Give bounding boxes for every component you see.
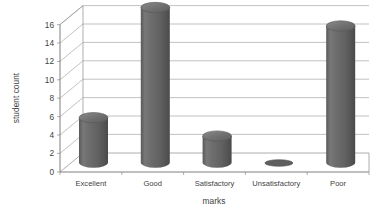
x-tick-satisfactory: Satisfactory <box>195 179 235 188</box>
bar-good[interactable] <box>141 2 170 167</box>
bar-chart: 0 2 4 6 8 10 12 14 16 Excellent Good Sat… <box>0 0 387 213</box>
y-tick-0: 0 <box>49 167 54 177</box>
x-axis-title: marks <box>203 196 226 206</box>
y-tick-14: 14 <box>45 38 55 48</box>
y-axis-tick-labels: 0 2 4 6 8 10 12 14 16 <box>45 20 55 177</box>
y-tick-4: 4 <box>49 130 54 140</box>
y-tick-16: 16 <box>45 20 55 30</box>
x-tick-unsatisfactory: Unsatisfactory <box>252 179 300 188</box>
bar-excellent[interactable] <box>79 113 108 168</box>
x-tick-excellent: Excellent <box>75 179 107 188</box>
y-tick-2: 2 <box>49 148 54 158</box>
x-axis-tick-labels: Excellent Good Satisfactory Unsatisfacto… <box>75 179 346 188</box>
wall-top-slant <box>60 6 83 25</box>
y-tick-12: 12 <box>45 56 55 66</box>
y-tick-6: 6 <box>49 112 54 122</box>
bar-poor[interactable] <box>326 21 355 168</box>
y-tick-8: 8 <box>49 93 54 103</box>
x-tick-poor: Poor <box>330 179 347 188</box>
y-tick-10: 10 <box>45 75 55 85</box>
bar-satisfactory[interactable] <box>203 131 232 168</box>
x-tick-good: Good <box>143 179 162 188</box>
bar-unsatisfactory[interactable] <box>265 160 293 167</box>
chart-canvas: 0 2 4 6 8 10 12 14 16 Excellent Good Sat… <box>0 0 387 213</box>
y-axis-title: student count <box>11 72 21 123</box>
